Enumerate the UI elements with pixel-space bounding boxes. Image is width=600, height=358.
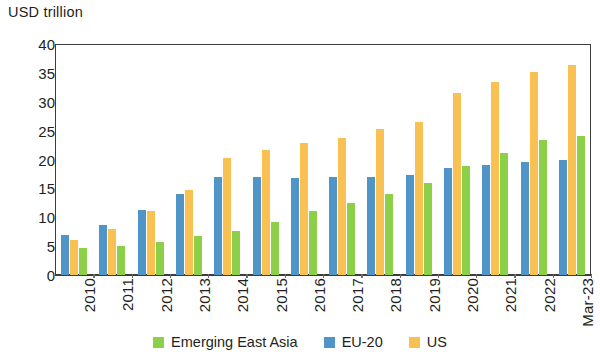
bar-eea	[156, 242, 164, 275]
x-axis-tick-label: 2022	[541, 278, 558, 312]
chart-legend: Emerging East AsiaEU-20US	[0, 334, 600, 350]
bar-us	[147, 211, 155, 275]
bar-group	[400, 44, 438, 275]
bar-us	[108, 229, 116, 275]
x-axis-tick-label: 2016	[311, 278, 328, 312]
bar-eea	[232, 231, 240, 275]
bar-eu	[406, 175, 414, 275]
bar-us	[491, 82, 499, 275]
x-axis-tick-label: 2013	[196, 278, 213, 312]
bar-us	[185, 190, 193, 275]
bar-group	[170, 44, 208, 275]
bar-group	[285, 44, 323, 275]
legend-swatch-icon	[153, 337, 164, 348]
bar-eu	[521, 162, 529, 275]
bar-us	[376, 129, 384, 275]
x-axis-tick-label: Mar-23	[579, 278, 596, 327]
bar-eu	[138, 210, 146, 275]
bar-eu	[61, 235, 69, 275]
bar-eu	[329, 177, 337, 275]
bar-group	[323, 44, 361, 275]
bar-chart: USD trillion 0510152025303540 2010201120…	[0, 0, 600, 358]
y-axis-tick-label: 20	[38, 151, 55, 168]
bar-eea	[462, 166, 470, 275]
bar-eu	[482, 165, 490, 275]
y-axis-tick-label: 25	[38, 122, 55, 139]
y-axis-tick-label: 0	[47, 267, 55, 284]
bar-eea	[117, 246, 125, 275]
bar-eea	[385, 194, 393, 275]
bar-eea	[539, 140, 547, 275]
y-axis-tick-label: 35	[38, 64, 55, 81]
x-axis-tick-label: 2020	[464, 278, 481, 312]
bar-us	[530, 72, 538, 275]
bar-eea	[347, 203, 355, 275]
x-axis-tick-label: 2015	[273, 278, 290, 312]
bar-eea	[194, 236, 202, 275]
bar-eu	[176, 194, 184, 275]
legend-swatch-icon	[409, 337, 420, 348]
bar-eu	[444, 168, 452, 275]
x-axis-tick-label: 2019	[426, 278, 443, 312]
x-axis-tick-label: 2014	[234, 278, 251, 312]
bar-eea	[271, 222, 279, 275]
legend-label: US	[427, 334, 447, 350]
bar-group	[55, 44, 93, 275]
bar-eu	[99, 225, 107, 275]
bar-eea	[79, 248, 87, 275]
bar-group	[132, 44, 170, 275]
bar-group	[208, 44, 246, 275]
legend-label: EU-20	[342, 334, 383, 350]
y-axis-tick-label: 40	[38, 36, 55, 53]
y-axis-tick-label: 30	[38, 93, 55, 110]
bar-us	[568, 65, 576, 275]
bar-group	[438, 44, 476, 275]
bar-group	[246, 44, 284, 275]
bar-group	[361, 44, 399, 275]
bar-eu	[367, 177, 375, 275]
y-axis-tick-label: 15	[38, 180, 55, 197]
x-axis-tick-label: 2017	[349, 278, 366, 312]
bar-eu	[291, 178, 299, 275]
y-axis-tick-label: 10	[38, 209, 55, 226]
bar-us	[223, 158, 231, 275]
bar-us	[300, 143, 308, 275]
x-axis-tick-label: 2010	[81, 278, 98, 312]
bars-layer	[55, 44, 591, 275]
bar-us	[262, 150, 270, 275]
bar-group	[476, 44, 514, 275]
bar-eea	[309, 211, 317, 275]
bar-eea	[577, 136, 585, 275]
x-axis-tick-label: 2012	[158, 278, 175, 312]
x-axis-tick-label: 2011	[119, 278, 136, 311]
x-axis-tick-label: 2021	[502, 278, 519, 312]
bar-us	[70, 240, 78, 275]
bar-eu	[214, 177, 222, 275]
bar-eu	[253, 177, 261, 275]
legend-item-eu[interactable]: EU-20	[324, 334, 383, 350]
bar-eu	[559, 160, 567, 276]
bar-us	[338, 138, 346, 275]
bar-group	[553, 44, 591, 275]
legend-item-eea[interactable]: Emerging East Asia	[153, 334, 298, 350]
x-axis-tick-label: 2018	[387, 278, 404, 312]
legend-label: Emerging East Asia	[171, 334, 298, 350]
bar-us	[415, 122, 423, 275]
bar-eea	[500, 153, 508, 275]
y-axis-tick-label: 5	[47, 238, 55, 255]
bar-us	[453, 93, 461, 275]
legend-swatch-icon	[324, 337, 335, 348]
legend-item-us[interactable]: US	[409, 334, 447, 350]
bar-group	[514, 44, 552, 275]
bar-group	[93, 44, 131, 275]
bar-eea	[424, 183, 432, 275]
